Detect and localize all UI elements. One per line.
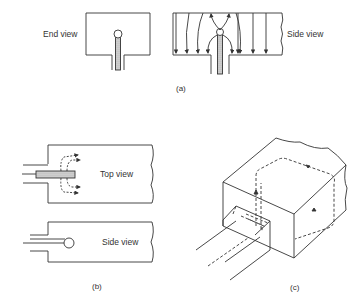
loop-probe	[64, 238, 74, 248]
top-view-label: Top view	[100, 170, 133, 179]
break-line	[151, 145, 153, 203]
side-view-label-a: Side view	[287, 30, 323, 39]
box-front-top-edge	[223, 182, 294, 258]
side-view-label-b: Side view	[102, 238, 138, 247]
break-line	[151, 222, 153, 262]
break-line	[281, 13, 283, 55]
diagram-canvas	[0, 0, 360, 304]
figure-a-end-view	[86, 13, 150, 70]
break-line-top	[276, 138, 346, 165]
probe-tip	[114, 30, 122, 38]
figure-b-top-view	[22, 145, 153, 203]
caption-c: (c)	[290, 284, 299, 292]
end-view-label: End view	[43, 30, 78, 39]
probe-stem	[116, 36, 121, 70]
caption-a: (a)	[176, 85, 186, 93]
break-line	[345, 165, 347, 210]
figure-c-isometric	[196, 138, 347, 280]
figure-a-side-view	[173, 13, 283, 74]
caption-b: (b)	[92, 283, 102, 291]
probe-stem	[218, 33, 223, 74]
probe-bar	[36, 171, 75, 178]
